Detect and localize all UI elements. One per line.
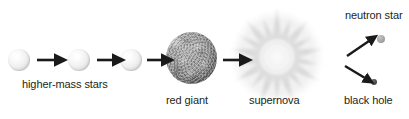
arrow-supernova-to-neutron-star — [347, 41, 369, 56]
label-higher-mass-stars: higher-mass stars — [22, 79, 108, 90]
label-red-giant: red giant — [166, 95, 208, 106]
label-supernova: supernova — [249, 95, 299, 106]
label-black-hole: black hole — [344, 95, 393, 106]
arrow-supernova-to-black-hole — [345, 66, 365, 78]
stellar-evolution-diagram: higher-mass stars red giant supernova ne… — [0, 0, 409, 119]
label-neutron-star: neutron star — [345, 10, 403, 21]
